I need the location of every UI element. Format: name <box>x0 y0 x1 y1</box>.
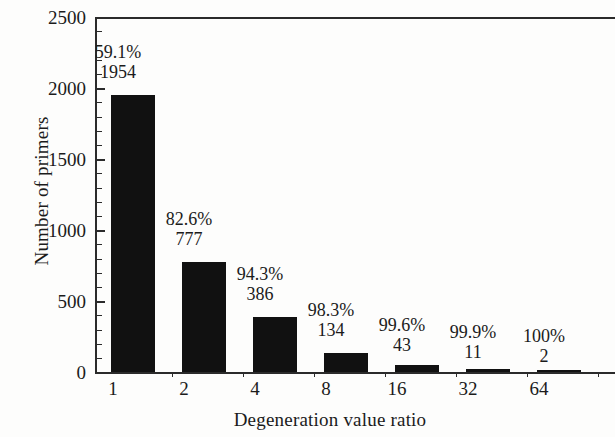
data-label-value: 43 <box>365 335 439 355</box>
data-label-category-8: 98.3% 134 <box>294 300 368 340</box>
data-label-percent: 82.6% <box>152 209 226 229</box>
y-minor-tick-200 <box>97 344 102 345</box>
data-label-percent: 98.3% <box>294 300 368 320</box>
y-minor-tick-100 <box>97 358 102 359</box>
x-tick-label-4: 4 <box>225 378 285 400</box>
y-minor-tick-1100 <box>97 216 102 217</box>
bar-category-64 <box>537 370 581 372</box>
bar-category-32 <box>466 369 510 372</box>
x-tick-label-2: 2 <box>154 378 214 400</box>
x-tick-label-64: 64 <box>509 378 569 400</box>
y-minor-tick-1300 <box>97 188 102 189</box>
data-label-category-32: 99.9% 11 <box>436 322 510 362</box>
data-label-percent: 59.1% <box>81 42 155 62</box>
x-tick-label-32: 32 <box>438 378 498 400</box>
y-minor-tick-300 <box>97 330 102 331</box>
x-boundary-tick-1 <box>172 372 173 377</box>
bar-category-4 <box>253 317 297 372</box>
y-axis-title: Number of primers <box>31 71 53 311</box>
y-tick-label-2000: 2000 <box>24 79 86 98</box>
y-major-tick-1500 <box>97 159 105 161</box>
data-label-value: 2 <box>507 346 581 366</box>
y-minor-tick-700 <box>97 273 102 274</box>
bar-category-1 <box>111 95 155 372</box>
bar-category-2 <box>182 262 226 372</box>
data-label-percent: 100% <box>507 326 581 346</box>
x-boundary-tick-4 <box>385 372 386 377</box>
y-major-tick-2500 <box>97 17 105 19</box>
data-label-category-4: 94.3% 386 <box>223 264 297 304</box>
bar-chart-figure: Number of primers 2500 2000 1500 1000 50… <box>0 0 615 437</box>
y-minor-tick-1800 <box>97 117 102 118</box>
data-label-percent: 99.9% <box>436 322 510 342</box>
bar-category-16 <box>395 365 439 372</box>
y-tick-label-1500: 1500 <box>24 150 86 169</box>
y-tick-label-500: 500 <box>24 292 86 311</box>
y-major-tick-0 <box>97 372 105 374</box>
y-minor-tick-1200 <box>97 202 102 203</box>
x-axis-line <box>95 372 615 374</box>
y-major-tick-1000 <box>97 230 105 232</box>
y-tick-label-1000: 1000 <box>24 221 86 240</box>
data-label-category-16: 99.6% 43 <box>365 315 439 355</box>
data-label-value: 777 <box>152 229 226 249</box>
x-tick-label-8: 8 <box>296 378 356 400</box>
y-minor-tick-2400 <box>97 31 102 32</box>
y-minor-tick-1400 <box>97 173 102 174</box>
data-label-percent: 99.6% <box>365 315 439 335</box>
data-label-value: 11 <box>436 342 510 362</box>
x-boundary-tick-5 <box>456 372 457 377</box>
y-minor-tick-1600 <box>97 145 102 146</box>
x-axis-title: Degeneration value ratio <box>95 409 565 431</box>
y-minor-tick-1900 <box>97 102 102 103</box>
data-label-category-1: 59.1% 1954 <box>81 42 155 82</box>
y-minor-tick-800 <box>97 259 102 260</box>
data-label-value: 386 <box>223 284 297 304</box>
x-tick-label-16: 16 <box>367 378 427 400</box>
x-boundary-tick-3 <box>314 372 315 377</box>
y-major-tick-2000 <box>97 88 105 90</box>
y-minor-tick-900 <box>97 244 102 245</box>
plot-top-border <box>95 17 615 19</box>
x-boundary-tick-6 <box>527 372 528 377</box>
data-label-value: 134 <box>294 320 368 340</box>
x-boundary-tick-2 <box>243 372 244 377</box>
y-minor-tick-400 <box>97 315 102 316</box>
data-label-category-2: 82.6% 777 <box>152 209 226 249</box>
x-tick-label-1: 1 <box>83 378 143 400</box>
data-label-value: 1954 <box>81 62 155 82</box>
bar-category-8 <box>324 353 368 372</box>
y-minor-tick-600 <box>97 287 102 288</box>
y-major-tick-500 <box>97 301 105 303</box>
y-minor-tick-1700 <box>97 131 102 132</box>
x-boundary-tick-7 <box>598 372 599 377</box>
data-label-percent: 94.3% <box>223 264 297 284</box>
y-tick-label-0: 0 <box>24 363 86 382</box>
data-label-category-64: 100% 2 <box>507 326 581 366</box>
y-tick-label-2500: 2500 <box>24 8 86 27</box>
